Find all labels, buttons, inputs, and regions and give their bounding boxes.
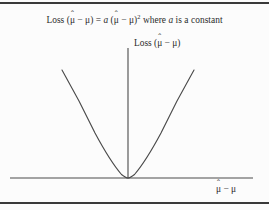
figure-container: Loss (ˆμ − μ) = a (ˆμ − μ)2 where a is a… <box>0 0 269 210</box>
plot-area <box>0 0 269 210</box>
ylabel-mu-hat: ˆμ <box>157 38 162 48</box>
ylabel-prefix: Loss ( <box>134 38 157 48</box>
xlabel-mu-hat: ˆμ <box>216 184 221 194</box>
ylabel-suffix: − μ) <box>162 38 180 48</box>
y-axis-label: Loss (ˆμ − μ) <box>134 38 180 48</box>
hat-accent-icon: ˆ <box>217 179 220 188</box>
xlabel-suffix: − μ <box>221 184 236 194</box>
hat-accent-icon: ˆ <box>158 33 161 42</box>
x-axis-label: ˆμ − μ <box>216 184 236 194</box>
